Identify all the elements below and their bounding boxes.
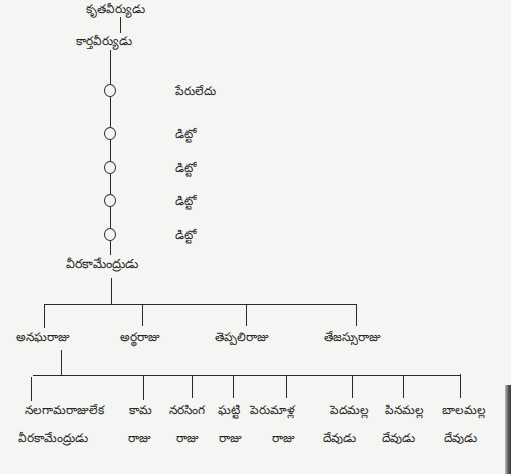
son-label-3: తెప్పలిరాజు bbox=[215, 330, 269, 344]
grandson-8-line2: దేవుడు bbox=[444, 431, 477, 445]
grandson-6-line2: దేవుడు bbox=[323, 431, 356, 445]
generation-label-4: డిట్టో bbox=[175, 194, 196, 208]
generation-node-5 bbox=[104, 228, 116, 241]
grandson-1-line1: నలగామరాజులేక bbox=[25, 403, 104, 417]
grandson-branch-3 bbox=[192, 376, 193, 398]
generation-node-1 bbox=[104, 84, 116, 97]
connector-line bbox=[120, 17, 121, 33]
generation-label-2: డిట్టో bbox=[175, 127, 196, 141]
genealogy-diagram: కృతవీర్యుడు కార్తవీర్యుడు పేరులేదు డిట్ట… bbox=[0, 0, 511, 474]
connector-line bbox=[110, 174, 111, 194]
grandson-7-line1: పినమల్ల bbox=[385, 403, 424, 417]
grandson-branch-7 bbox=[403, 376, 404, 398]
sons-bar bbox=[44, 304, 356, 305]
grandson-1-line2: వీరకామేంద్రుడు bbox=[18, 431, 88, 445]
grandson-3-line2: రాజు bbox=[176, 431, 199, 445]
son-branch-1 bbox=[44, 304, 45, 328]
grandson-branch-5 bbox=[286, 376, 287, 398]
connector-line bbox=[110, 241, 111, 255]
progenitor-label: వీరకామేంద్రుడు bbox=[66, 257, 138, 271]
generation-node-3 bbox=[104, 161, 116, 174]
trunk-line bbox=[111, 278, 112, 304]
grandsons-bar bbox=[33, 375, 461, 376]
son-label-1: అనఘరాజు bbox=[16, 330, 70, 344]
son-label-2: అర్థరాజు bbox=[120, 330, 160, 344]
connector-line bbox=[110, 207, 111, 228]
generation-label-3: డిట్టో bbox=[175, 161, 196, 175]
grandson-branch-4 bbox=[233, 376, 234, 398]
generation-label-1: పేరులేదు bbox=[175, 84, 216, 98]
generation-node-2 bbox=[104, 127, 116, 140]
son-branch-4 bbox=[356, 304, 357, 326]
grandson-2-line1: కామ bbox=[129, 403, 152, 417]
anagha-trunk-line bbox=[61, 350, 62, 375]
generation-node-4 bbox=[104, 194, 116, 207]
grandson-branch-1 bbox=[31, 377, 32, 401]
generation-label-5: డిట్టో bbox=[175, 228, 196, 242]
grandson-3-line1: నరసింగ bbox=[169, 403, 205, 417]
grandson-branch-2 bbox=[143, 376, 144, 400]
ancestor-label: కార్తవీర్యుడు bbox=[76, 34, 132, 48]
son-branch-2 bbox=[142, 304, 143, 326]
grandson-2-line2: రాజు bbox=[128, 431, 151, 445]
son-label-4: తేజస్సురాజు bbox=[324, 330, 381, 344]
grandson-5-line1: పెరుమాళ్ల bbox=[250, 403, 295, 417]
grandson-4-line2: రాజు bbox=[219, 431, 242, 445]
connector-line bbox=[110, 140, 111, 161]
root-partial-label: కృతవీర్యుడు bbox=[86, 2, 145, 16]
grandson-8-line1: బాలమల్ల bbox=[442, 403, 486, 417]
connector-line bbox=[110, 50, 111, 84]
grandson-branch-6 bbox=[352, 376, 353, 398]
grandson-5-line2: రాజు bbox=[272, 431, 295, 445]
grandson-7-line2: దేవుడు bbox=[382, 431, 415, 445]
grandson-4-line1: ఘట్టి bbox=[218, 403, 240, 417]
page-edge-shadow bbox=[505, 385, 511, 474]
grandson-branch-8 bbox=[460, 374, 461, 398]
son-branch-3 bbox=[246, 304, 247, 326]
grandson-6-line1: పెదమల్ల bbox=[330, 403, 369, 417]
connector-line bbox=[110, 97, 111, 127]
